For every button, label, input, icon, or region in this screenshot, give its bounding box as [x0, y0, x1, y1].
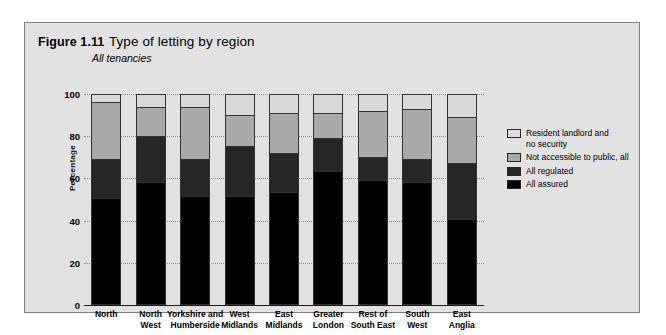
bar-segment-all-assured [359, 181, 387, 304]
bar-north-west [136, 94, 166, 305]
y-axis-tick-100: 100 [50, 89, 80, 100]
not-accessible-swatch [507, 153, 521, 162]
x-axis-line [84, 305, 484, 306]
bar-segment-not-accessible-to-public-all [314, 114, 342, 139]
figure-subtitle: All tenancies [92, 52, 538, 64]
bar-segment-all-regulated [314, 139, 342, 172]
bar-north [91, 94, 121, 305]
figure-panel: Figure 1.11 Type of letting by region Al… [24, 22, 640, 313]
resident-landlord-swatch [507, 129, 521, 138]
bar-east-midlands [269, 94, 299, 305]
legend-item-1: Not accessible to public, all [507, 152, 635, 163]
bar-segment-not-accessible-to-public-all [181, 108, 209, 160]
bar-segment-resident-landlord-and-no-security [359, 95, 387, 112]
x-axis-label-line1: East [427, 309, 497, 320]
chart-plot-wrapper: Percentage 020406080100 NorthNorthWestYo… [38, 69, 508, 314]
bar-segment-all-assured [92, 199, 120, 304]
bar-segment-resident-landlord-and-no-security [270, 95, 298, 114]
bar-segment-all-regulated [226, 147, 254, 197]
bar-segment-all-regulated [403, 160, 431, 183]
bar-segment-all-assured [181, 197, 209, 304]
bar-segment-resident-landlord-and-no-security [226, 95, 254, 116]
x-axis-label-8: EastAnglia [427, 309, 497, 330]
bar-segment-all-regulated [270, 154, 298, 194]
all-assured-swatch [507, 180, 521, 189]
y-axis-tick-40: 40 [50, 215, 80, 226]
figure-title-block: Figure 1.11 Type of letting by region Al… [38, 32, 538, 64]
bar-segment-resident-landlord-and-no-security [448, 95, 476, 118]
bar-segment-not-accessible-to-public-all [448, 118, 476, 164]
bar-segment-not-accessible-to-public-all [92, 103, 120, 159]
bar-segment-resident-landlord-and-no-security [92, 95, 120, 103]
bar-segment-resident-landlord-and-no-security [314, 95, 342, 114]
bar-segment-resident-landlord-and-no-security [137, 95, 165, 108]
bar-segment-all-regulated [92, 160, 120, 200]
bar-segment-not-accessible-to-public-all [403, 110, 431, 160]
bar-segment-all-regulated [181, 160, 209, 198]
bar-south-west [402, 94, 432, 305]
bar-segment-not-accessible-to-public-all [137, 108, 165, 137]
x-axis-tick-labels: NorthNorthWestYorkshire andHumbersideWes… [84, 309, 484, 335]
bar-segment-all-assured [314, 172, 342, 304]
legend-item-label: All assured [526, 179, 568, 190]
bar-segment-resident-landlord-and-no-security [403, 95, 431, 110]
legend-item-2: All regulated [507, 166, 635, 177]
bar-east-anglia [447, 94, 477, 305]
legend-item-label: All regulated [526, 166, 573, 177]
x-axis-label-line2: Anglia [427, 320, 497, 331]
legend-item-label: Not accessible to public, all [526, 152, 629, 163]
legend-item-label: Resident landlord andno security [526, 128, 609, 149]
bar-segment-not-accessible-to-public-all [270, 114, 298, 154]
bar-segment-all-regulated [137, 137, 165, 183]
bar-rest-of-south-east [358, 94, 388, 305]
y-axis-tick-80: 80 [50, 131, 80, 142]
chart-legend: Resident landlord andno securityNot acce… [507, 128, 635, 193]
bar-segment-all-assured [226, 197, 254, 304]
legend-item-label-line2: no security [526, 139, 567, 149]
y-axis-tick-labels: 020406080100 [50, 94, 80, 305]
bar-segment-all-assured [448, 220, 476, 304]
figure-number: Figure 1.11 [38, 35, 104, 49]
bar-segment-all-regulated [359, 158, 387, 181]
bar-segment-all-assured [403, 183, 431, 304]
bar-segment-resident-landlord-and-no-security [181, 95, 209, 108]
legend-item-0: Resident landlord andno security [507, 128, 635, 149]
bar-segment-all-assured [270, 193, 298, 304]
bar-segment-all-regulated [448, 164, 476, 220]
y-axis-tick-20: 20 [50, 257, 80, 268]
bar-west-midlands [225, 94, 255, 305]
bar-segment-not-accessible-to-public-all [359, 112, 387, 158]
chart-plot-area [84, 94, 484, 305]
page-title: Type of letting by region [109, 34, 255, 49]
bar-segment-all-assured [137, 183, 165, 304]
y-axis-tick-60: 60 [50, 173, 80, 184]
all-regulated-swatch [507, 167, 521, 176]
bar-segment-not-accessible-to-public-all [226, 116, 254, 147]
bar-greater-london [313, 94, 343, 305]
legend-item-3: All assured [507, 179, 635, 190]
bar-yorkshire-and-humberside [180, 94, 210, 305]
